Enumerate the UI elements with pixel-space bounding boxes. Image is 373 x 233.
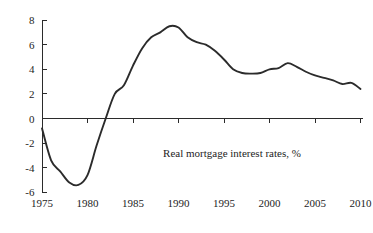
y-tick-label-6: 6 — [29, 39, 35, 51]
x-axis-ticks — [42, 119, 361, 124]
x-tick-label-1995: 1995 — [213, 197, 236, 209]
x-tick-label-2000: 2000 — [259, 197, 282, 209]
y-tick-label--2: -2 — [25, 137, 34, 149]
x-tick-label-2010: 2010 — [350, 197, 373, 209]
chart-annotation: Real mortgage interest rates, % — [163, 147, 301, 159]
x-tick-label-1980: 1980 — [77, 197, 100, 209]
chart-container: -6-4-202468 1975198019851990199520002005… — [0, 0, 373, 233]
y-tick-label-8: 8 — [29, 14, 35, 26]
y-tick-label-2: 2 — [29, 88, 35, 100]
y-tick-label--4: -4 — [25, 162, 35, 174]
line-chart: -6-4-202468 1975198019851990199520002005… — [0, 0, 373, 233]
x-tick-label-1975: 1975 — [31, 197, 54, 209]
x-tick-label-2005: 2005 — [304, 197, 327, 209]
y-axis-ticks — [42, 20, 47, 192]
y-tick-label-0: 0 — [29, 113, 35, 125]
x-tick-label-1990: 1990 — [168, 197, 191, 209]
y-tick-label-4: 4 — [29, 63, 35, 75]
x-axis-tick-labels: 19751980198519901995200020052010 — [31, 197, 372, 209]
y-axis-tick-labels: -6-4-202468 — [25, 14, 35, 198]
data-series-line — [42, 26, 361, 186]
x-tick-label-1985: 1985 — [122, 197, 145, 209]
